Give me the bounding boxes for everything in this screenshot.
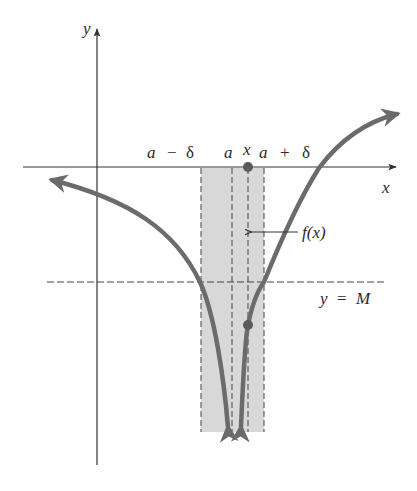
label-a: a xyxy=(224,143,233,162)
label-y-equals-M: y = M xyxy=(318,289,371,308)
point-f-of-x xyxy=(243,320,253,330)
y-axis-label: y xyxy=(81,19,91,38)
svg-text:a: a xyxy=(259,143,268,162)
point-x-on-axis xyxy=(243,162,253,172)
x-axis-label: x xyxy=(381,178,390,197)
label-a-minus-delta: a − δ xyxy=(147,143,194,162)
label-x-point: x xyxy=(242,140,251,159)
svg-text:a: a xyxy=(147,143,156,162)
svg-text:+: + xyxy=(280,143,290,162)
label-a-plus-delta: a + δ xyxy=(259,143,310,162)
diagram-canvas: y x a − δ a x a + δ f(x) y = M xyxy=(0,0,417,491)
svg-text:y: y xyxy=(318,289,328,308)
svg-text:δ: δ xyxy=(302,143,310,162)
svg-text:=: = xyxy=(337,289,347,308)
function-label: f(x) xyxy=(302,223,326,242)
svg-text:δ: δ xyxy=(186,143,194,162)
svg-text:−: − xyxy=(167,143,177,162)
svg-text:M: M xyxy=(355,289,371,308)
